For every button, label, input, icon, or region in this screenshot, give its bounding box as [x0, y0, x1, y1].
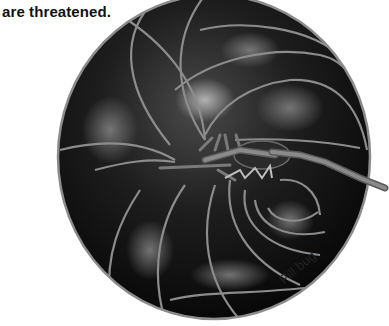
pill-bug-illustration: [0, 0, 389, 326]
caption-text: are threatened.: [2, 3, 111, 20]
